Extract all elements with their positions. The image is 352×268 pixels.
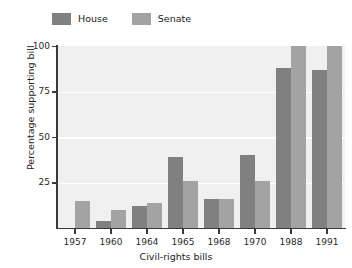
x-axis-title: Civil-rights bills <box>0 252 352 262</box>
bar-senate-1988 <box>291 46 306 228</box>
x-tick-mark <box>182 229 184 234</box>
bar-house-1991 <box>312 70 327 228</box>
legend-label-senate: Senate <box>158 14 191 24</box>
legend-swatch-senate <box>132 13 151 25</box>
bar-group <box>165 46 201 228</box>
y-tick-mark <box>52 137 56 139</box>
x-tick-mark <box>74 229 76 234</box>
bar-group <box>201 46 237 228</box>
x-tick-mark <box>290 229 292 234</box>
legend-label-house: House <box>78 14 108 24</box>
bar-house-1970 <box>240 155 255 228</box>
x-tick-mark <box>326 229 328 234</box>
x-tick-label: 1988 <box>271 238 311 247</box>
x-tick-label: 1970 <box>235 238 275 247</box>
y-axis-title: Percentage supporting bill <box>26 18 36 198</box>
y-tick-mark <box>52 91 56 93</box>
bar-senate-1965 <box>183 181 198 228</box>
bar-house-1968 <box>204 199 219 228</box>
y-axis-line <box>56 45 58 229</box>
bar-house-1965 <box>168 157 183 228</box>
bar-senate-1960 <box>111 210 126 228</box>
bar-senate-1957 <box>75 201 90 228</box>
legend-entry-senate: Senate <box>132 13 191 25</box>
bar-house-1964 <box>132 206 147 228</box>
chart-legend: House Senate <box>52 13 191 25</box>
x-axis-line <box>56 228 346 230</box>
bar-group <box>237 46 273 228</box>
legend-entry-house: House <box>52 13 108 25</box>
x-tick-label: 1991 <box>307 238 347 247</box>
x-tick-label: 1964 <box>127 238 167 247</box>
x-tick-mark <box>218 229 220 234</box>
bar-house-1988 <box>276 68 291 228</box>
x-tick-mark <box>146 229 148 234</box>
bar-group <box>129 46 165 228</box>
bar-senate-1991 <box>327 46 342 228</box>
bar-group <box>273 46 309 228</box>
bar-group <box>57 46 93 228</box>
x-tick-label: 1960 <box>91 238 131 247</box>
bar-group <box>309 46 345 228</box>
x-tick-mark <box>254 229 256 234</box>
x-tick-label: 1965 <box>163 238 203 247</box>
bar-senate-1964 <box>147 203 162 228</box>
y-tick-mark <box>52 182 56 184</box>
bar-senate-1970 <box>255 181 270 228</box>
bar-senate-1968 <box>219 199 234 228</box>
y-tick-mark <box>52 46 56 48</box>
x-tick-mark <box>110 229 112 234</box>
x-tick-label: 1957 <box>55 238 95 247</box>
legend-swatch-house <box>52 13 71 25</box>
x-tick-label: 1968 <box>199 238 239 247</box>
bar-chart-figure: House Senate 255075100 19571960196419651… <box>0 0 352 268</box>
bar-group <box>93 46 129 228</box>
plot-area <box>57 46 345 228</box>
